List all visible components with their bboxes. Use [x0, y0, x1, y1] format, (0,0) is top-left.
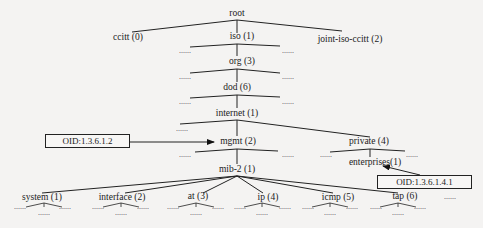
node-org: org (3): [229, 57, 255, 67]
node-root: root: [229, 9, 244, 19]
ellipsis: ......: [414, 203, 426, 211]
oid-box-enterprises: OID:1.3.6.1.4.1: [377, 175, 472, 189]
ellipsis: ......: [392, 209, 404, 217]
node-mib-2: mib-2 (1): [219, 165, 255, 175]
node-ccitt: ccitt (0): [113, 33, 143, 43]
node-ip: ip (4): [258, 193, 279, 203]
ellipsis: ......: [212, 203, 224, 211]
ellipsis: ......: [115, 209, 127, 217]
ellipsis: ......: [444, 193, 456, 201]
node-enterprises: enterprises(1): [349, 158, 401, 168]
node-at: at (3): [188, 192, 208, 202]
ellipsis: ......: [176, 125, 188, 133]
ellipsis: ......: [279, 203, 291, 211]
ellipsis: ......: [137, 203, 149, 211]
ellipsis: ......: [302, 203, 314, 211]
ellipsis: ......: [59, 203, 71, 211]
ellipsis: ......: [282, 151, 294, 159]
node-mgmt: mgmt (2): [220, 137, 256, 147]
node-system: system (1): [22, 193, 62, 203]
ellipsis: ......: [38, 209, 50, 217]
node-private: private (4): [349, 137, 389, 147]
oid-box-mgmt: OID:1.3.6.1.2: [45, 134, 130, 148]
node-tap: tap (6): [392, 192, 417, 202]
ellipsis: ......: [320, 151, 332, 159]
ellipsis: ......: [282, 73, 294, 81]
ellipsis: ......: [234, 203, 246, 211]
ellipsis: ......: [282, 98, 294, 106]
ellipsis: ......: [179, 47, 191, 55]
node-joint-iso-ccitt: joint-iso-ccitt (2): [318, 35, 383, 45]
node-iso: iso (1): [230, 32, 255, 42]
ellipsis: ......: [370, 203, 382, 211]
ellipsis: ......: [324, 209, 336, 217]
mib-tree-diagram: root ccitt (0) iso (1) joint-iso-ccitt (…: [0, 0, 483, 228]
ellipsis: ......: [190, 209, 202, 217]
ellipsis: ......: [179, 98, 191, 106]
ellipsis: ......: [406, 151, 418, 159]
ellipsis: ......: [346, 203, 358, 211]
ellipsis: ......: [167, 203, 179, 211]
node-dod: dod (6): [223, 83, 251, 93]
ellipsis: ......: [179, 151, 191, 159]
ellipsis: ......: [179, 73, 191, 81]
ellipsis: ......: [14, 203, 26, 211]
node-internet: internet (1): [216, 109, 258, 119]
ellipsis: ......: [282, 47, 294, 55]
ellipsis: ......: [92, 203, 104, 211]
ellipsis: ......: [256, 209, 268, 217]
